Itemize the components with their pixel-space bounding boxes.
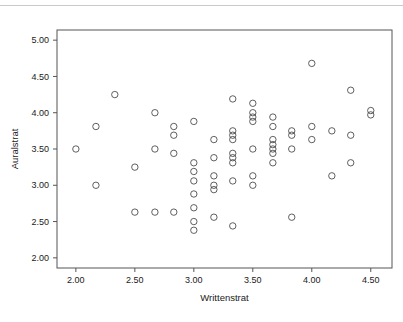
data-point [171,150,177,156]
data-point [171,132,177,138]
data-point [250,173,256,179]
data-point [112,91,118,97]
data-point [191,118,197,124]
data-point [93,182,99,188]
y-axis-ticks: 2.002.503.003.504.004.505.00 [31,35,57,263]
data-point [171,209,177,215]
y-axis-title: Auralstrat [9,128,20,169]
data-point [230,178,236,184]
data-point [270,123,276,129]
data-point [348,160,354,166]
data-point [270,160,276,166]
data-point [348,87,354,93]
data-point [132,164,138,170]
y-tick-label: 4.00 [31,108,49,118]
data-point [191,160,197,166]
data-point [270,150,276,156]
data-point [171,123,177,129]
data-point [250,146,256,152]
data-point [73,146,79,152]
data-point [152,209,158,215]
data-point [329,128,335,134]
x-tick-label: 2.50 [126,275,144,285]
data-point [250,100,256,106]
data-point [191,218,197,224]
data-point [211,136,217,142]
data-point [270,114,276,120]
x-tick-label: 2.00 [67,275,85,285]
plot-canvas: 2.002.503.003.504.004.505.00 2.002.503.0… [0,0,403,322]
x-axis-title: Writtenstrat [200,292,249,303]
data-point [211,214,217,220]
x-tick-label: 4.50 [362,275,380,285]
plot-frame-rect [57,30,392,268]
data-point [289,146,295,152]
x-axis-ticks: 2.002.503.003.504.004.50 [67,268,379,285]
data-point [309,60,315,66]
data-point [289,132,295,138]
data-point [309,123,315,129]
data-point [211,173,217,179]
data-point [191,168,197,174]
y-tick-label: 2.50 [31,217,49,227]
data-point [211,186,217,192]
data-point [348,132,354,138]
data-points-layer [73,60,374,233]
data-point [368,112,374,118]
data-point [329,173,335,179]
x-tick-label: 3.50 [244,275,262,285]
data-point [191,227,197,233]
data-point [191,178,197,184]
y-tick-label: 3.50 [31,144,49,154]
y-tick-label: 3.00 [31,180,49,190]
data-point [250,118,256,124]
data-point [289,214,295,220]
y-tick-label: 2.00 [31,253,49,263]
data-point [93,123,99,129]
scatter-plot-figure: 2.002.503.003.504.004.505.00 2.002.503.0… [0,0,403,322]
data-point [230,136,236,142]
data-point [152,110,158,116]
data-point [309,136,315,142]
y-tick-label: 4.50 [31,72,49,82]
data-point [230,96,236,102]
x-tick-label: 4.00 [303,275,321,285]
plot-frame [57,30,392,268]
data-point [191,205,197,211]
data-point [250,182,256,188]
data-point [152,146,158,152]
data-point [211,155,217,161]
data-point [230,223,236,229]
y-tick-label: 5.00 [31,35,49,45]
data-point [132,209,138,215]
x-tick-label: 3.00 [185,275,203,285]
data-point [191,191,197,197]
